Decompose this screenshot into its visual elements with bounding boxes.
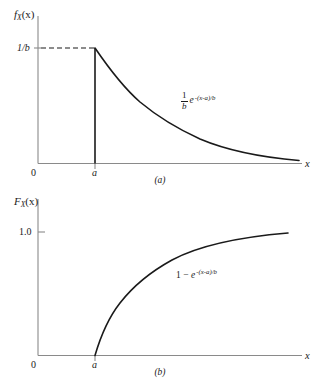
- pdf-formula-annotation: 1 b e-(x-a)/b: [181, 91, 215, 111]
- cdf-formula-lead: 1 −: [176, 271, 188, 281]
- cdf-formula-annotation: 1 −e-(x-a)/b: [176, 271, 217, 281]
- exponential-distribution-figure: fX(x) 1/b 0 a x 1 b e-(x-a)/b (a): [0, 0, 320, 390]
- cdf-caption: (b): [0, 368, 320, 378]
- cdf-y-axis-label: FX(x): [14, 196, 38, 207]
- cdf-y-tick-label: 1.0: [19, 227, 32, 237]
- pdf-y-axis-label: fX(x): [14, 9, 34, 20]
- pdf-formula-exponent: -(x-a)/b: [195, 95, 216, 102]
- cdf-formula-exponent: -(x-a)/b: [196, 269, 217, 276]
- cdf-curve: [95, 233, 288, 356]
- panel-cdf: FX(x) 1.0 0 a x 1 −e-(x-a)/b (b): [0, 195, 320, 390]
- pdf-x-axis-variable: x: [305, 159, 310, 170]
- pdf-caption: (a): [0, 176, 320, 186]
- cdf-formula-base: e: [191, 271, 195, 281]
- pdf-y-tick-label: 1/b: [17, 43, 30, 53]
- cdf-plot-svg: [0, 195, 320, 390]
- cdf-x-axis-variable: x: [305, 351, 310, 362]
- pdf-formula-base: e: [190, 96, 194, 106]
- panel-pdf: fX(x) 1/b 0 a x 1 b e-(x-a)/b (a): [0, 0, 320, 195]
- pdf-formula-fraction: 1 b: [181, 91, 188, 111]
- pdf-plot-svg: [0, 0, 320, 195]
